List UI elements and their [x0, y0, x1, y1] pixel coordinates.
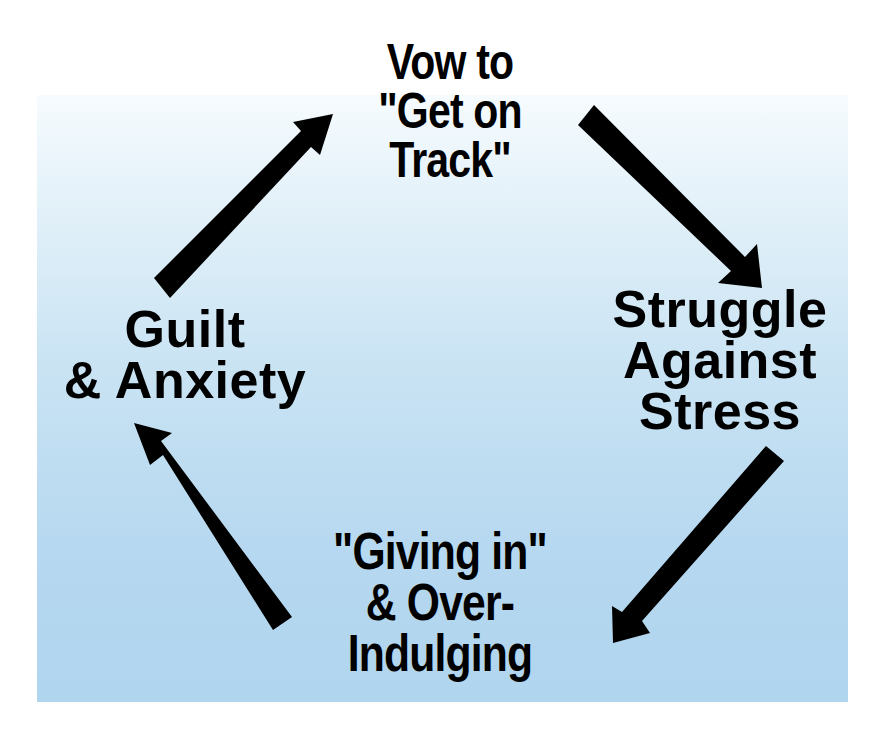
stage-struggle-line-2: Against [580, 335, 860, 386]
stage-vow-line-2: "Get on [343, 87, 556, 136]
cycle-diagram: Vow to "Get on Track" Struggle Against S… [0, 0, 880, 740]
stage-vow-to-get-on-track: Vow to "Get on Track" [343, 38, 556, 185]
stage-struggle-line-1: Struggle [580, 284, 860, 335]
stage-giving-line-1: "Giving in" [280, 526, 600, 577]
stage-guilt-line-2: & Anxiety [30, 355, 340, 406]
stage-giving-in-over-indulging: "Giving in" & Over- Indulging [280, 526, 600, 679]
stage-vow-line-1: Vow to [343, 38, 556, 87]
stage-guilt-line-1: Guilt [30, 304, 340, 355]
stage-vow-line-3: Track" [343, 136, 556, 185]
stage-guilt-and-anxiety: Guilt & Anxiety [30, 304, 340, 406]
stage-struggle-line-3: Stress [580, 386, 860, 437]
stage-struggle-against-stress: Struggle Against Stress [580, 284, 860, 437]
stage-giving-line-2: & Over- [280, 577, 600, 628]
stage-giving-line-3: Indulging [280, 628, 600, 679]
